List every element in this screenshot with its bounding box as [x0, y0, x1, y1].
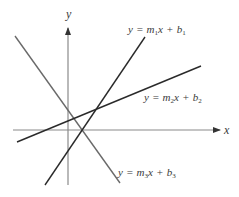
- line-2-equation-label: y = m2x + b2: [143, 91, 202, 105]
- linear-equations-diagram: x y y = m1x + b1 y = m2x + b2 y = m3x + …: [0, 0, 239, 197]
- line-3-equation-label: y = m3x + b3: [117, 166, 176, 180]
- line-1: [45, 37, 145, 185]
- x-axis-label: x: [223, 123, 230, 137]
- line-1-equation-label: y = m1x + b1: [127, 23, 186, 37]
- y-axis-label: y: [65, 7, 72, 21]
